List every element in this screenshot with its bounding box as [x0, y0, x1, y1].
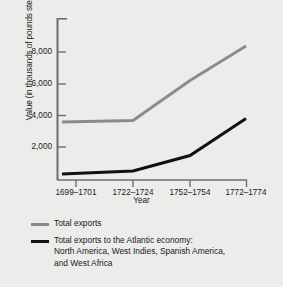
- legend-swatch-black-line-icon: [31, 240, 49, 243]
- chart-legend: Total exports Total exports to the Atlan…: [31, 218, 283, 274]
- line-chart-svg: [0, 0, 283, 212]
- y-tick-label-4000: 4,000: [18, 111, 52, 120]
- legend-label-total-exports-line-1: Total exports: [54, 218, 101, 230]
- legend-swatch-gray-line-icon: [31, 223, 49, 226]
- legend-label-atlantic-exports-line-1: Total exports to the Atlantic economy:: [54, 235, 225, 247]
- y-tick-label-6000: 6,000: [18, 79, 52, 88]
- legend-label-total-exports: Total exports: [54, 218, 101, 230]
- legend-label-atlantic-exports: Total exports to the Atlantic economy: N…: [54, 235, 225, 270]
- series-total-exports-line: [62, 46, 246, 122]
- y-tick-label-8000: 8,000: [18, 47, 52, 56]
- series-atlantic-exports-line: [62, 119, 246, 175]
- legend-label-atlantic-exports-line-2: North America, West Indies, Spanish Amer…: [54, 246, 225, 258]
- y-tick-label-2000: 2,000: [18, 142, 52, 151]
- legend-item-total-exports: Total exports: [31, 218, 283, 230]
- figure: Value (in thousands of pounds sterling) …: [0, 0, 283, 287]
- chart-plot-area: Value (in thousands of pounds sterling) …: [0, 0, 283, 212]
- x-axis-title: Year: [0, 196, 283, 205]
- legend-item-atlantic-exports: Total exports to the Atlantic economy: N…: [31, 235, 283, 270]
- legend-label-atlantic-exports-line-3: and West Africa: [54, 258, 225, 270]
